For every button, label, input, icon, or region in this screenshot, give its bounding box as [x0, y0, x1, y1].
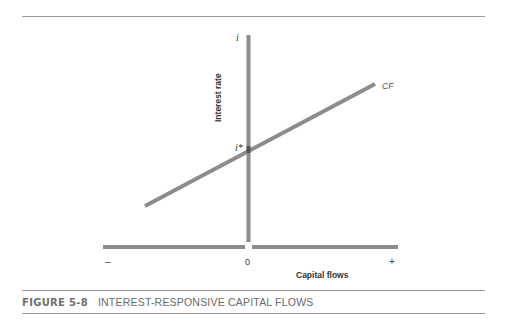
intersection-mark: [247, 146, 251, 153]
figure-caption: FIGURE 5-8INTEREST-RESPONSIVE CAPITAL FL…: [22, 294, 313, 310]
x-tick-zero: 0: [245, 257, 250, 267]
horizontal-axis-right: [252, 245, 398, 249]
vertical-axis: [247, 35, 251, 242]
x-tick-minus: –: [105, 256, 111, 267]
y-axis-symbol: i: [236, 32, 239, 43]
horizontal-axis-left: [103, 245, 245, 249]
cf-line: [145, 84, 375, 206]
figure-title: INTEREST-RESPONSIVE CAPITAL FLOWS: [98, 296, 313, 308]
y-axis-label: Interest rate: [213, 73, 223, 122]
figure-number: FIGURE 5-8: [22, 297, 88, 308]
caption-top-rule: [22, 290, 485, 291]
cf-label: CF: [382, 81, 394, 91]
capital-flows-diagram: i Interest rate i* CF – 0 + Capital flow…: [0, 0, 506, 324]
x-axis-label: Capital flows: [296, 270, 349, 280]
caption-bottom-rule: [22, 313, 485, 314]
intercept-label: i*: [235, 142, 243, 153]
x-tick-plus: +: [389, 256, 395, 267]
